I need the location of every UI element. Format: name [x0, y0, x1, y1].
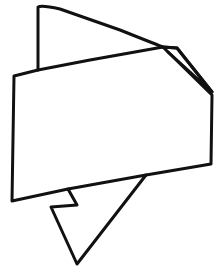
- fold-crease: [163, 47, 212, 92]
- top-flap: [38, 6, 212, 92]
- banner-drawing: [0, 0, 224, 273]
- main-panel: [12, 47, 212, 201]
